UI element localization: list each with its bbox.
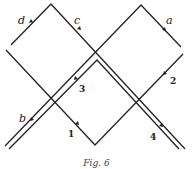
- label-3: 3: [79, 84, 85, 94]
- label-4: 4: [150, 132, 156, 142]
- figure-caption: Fig. 6: [0, 158, 193, 168]
- strand-1-2: [6, 50, 183, 145]
- label-d: d: [18, 14, 25, 27]
- label-c: c: [74, 14, 80, 27]
- label-1: 1: [68, 129, 74, 139]
- strand-a-b: [5, 5, 181, 146]
- label-b: b: [19, 112, 26, 125]
- braid-diagram: d c a b 3 1 2 4: [0, 0, 193, 169]
- label-2: 2: [170, 76, 176, 86]
- label-a: a: [166, 14, 173, 27]
